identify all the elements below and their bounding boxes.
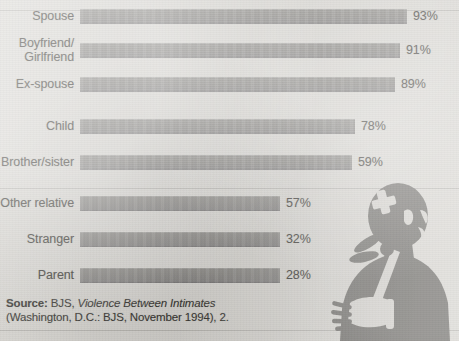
- source-publisher: BJS,: [48, 297, 78, 309]
- bar-category-label: Other relative: [0, 197, 74, 211]
- hand-fingers: [331, 301, 352, 332]
- bar: [80, 196, 280, 211]
- slung-forearm: [348, 297, 392, 327]
- bar-category-label: Spouse: [32, 10, 74, 24]
- bar: [80, 9, 407, 24]
- bar-value-label: 32%: [286, 232, 311, 247]
- bar-category-label: Stranger: [27, 233, 74, 247]
- bar-value-label: 91%: [406, 43, 431, 58]
- bar: [80, 268, 280, 283]
- bar-value-label: 28%: [286, 268, 311, 283]
- bar: [80, 119, 355, 134]
- wrist-band: [386, 299, 394, 329]
- source-title: Violence Between Intimates: [78, 297, 216, 309]
- bar-value-label: 78%: [361, 119, 386, 134]
- bar-value-label: 59%: [358, 155, 383, 170]
- bar-category-label: Boyfriend/ Girlfriend: [19, 37, 74, 64]
- bar-category-label: Ex-spouse: [16, 78, 74, 92]
- bar: [80, 232, 280, 247]
- source-label: Source:: [6, 297, 48, 309]
- bar-category-label: Brother/sister: [1, 156, 74, 170]
- bar-category-label: Child: [46, 120, 74, 134]
- eye-shape: [404, 209, 413, 225]
- injured-person-silhouette-illustration: [330, 183, 459, 341]
- bar-chart-figure: Spouse 93% Boyfriend/ Girlfriend 91% Ex-…: [0, 0, 459, 341]
- bar: [80, 155, 352, 170]
- bar-value-label: 93%: [413, 9, 438, 24]
- bar-value-label: 57%: [286, 196, 311, 211]
- bar: [80, 43, 400, 58]
- bar-category-label: Parent: [38, 269, 74, 283]
- bar-value-label: 89%: [401, 77, 426, 92]
- bar: [80, 77, 395, 92]
- source-citation: Source: BJS, Violence Between Intimates …: [6, 296, 229, 324]
- source-details: (Washington, D.C.: BJS, November 1994), …: [6, 310, 229, 324]
